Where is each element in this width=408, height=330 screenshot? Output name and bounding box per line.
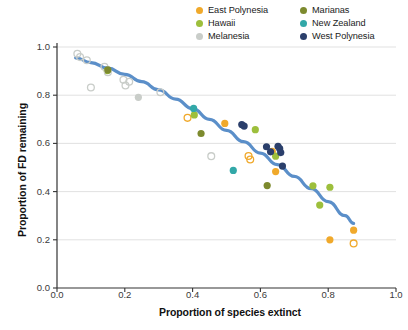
data-point-east-polynesia-open: [350, 240, 357, 247]
legend-label-hawaii: Hawaii: [208, 17, 235, 30]
y-tick-label: 1.0: [26, 41, 50, 52]
legend-swatch-new_zealand: [300, 20, 307, 27]
legend-label-east_polynesia: East Polynesia: [208, 4, 268, 17]
y-axis-tick-labels: 0.00.20.40.60.81.0: [22, 0, 50, 330]
data-point-marianas: [104, 66, 111, 73]
data-point-new-zealand: [230, 167, 237, 174]
axes: [53, 43, 396, 292]
data-point-melanesia-open: [208, 153, 215, 160]
chart-legend: East PolynesiaMarianasHawaiiNew ZealandM…: [196, 4, 402, 44]
data-point-melanesia: [135, 94, 142, 101]
data-point-hawaii: [252, 126, 259, 133]
plot-area: [0, 0, 408, 330]
data-point-hawaii: [326, 184, 333, 191]
data-point-hawaii: [316, 202, 323, 209]
data-point-west-polynesia: [279, 162, 286, 169]
data-point-west-polynesia: [277, 149, 284, 156]
legend-item-marianas[interactable]: Marianas: [300, 4, 402, 17]
data-point-marianas: [197, 130, 204, 137]
x-axis-tick-labels: 0.00.20.40.60.81.0: [0, 289, 408, 303]
chart-figure: East PolynesiaMarianasHawaiiNew ZealandM…: [0, 0, 408, 330]
data-point-hawaii: [191, 111, 198, 118]
trend-curve: [76, 58, 354, 224]
data-point-west-polynesia: [241, 122, 248, 129]
x-tick-label: 0.0: [42, 289, 72, 300]
data-point-east-polynesia: [272, 168, 279, 175]
legend-item-west_polynesia[interactable]: West Polynesia: [300, 30, 402, 43]
data-point-west-polynesia: [267, 148, 274, 155]
legend-swatch-marianas: [300, 7, 307, 14]
legend-item-new_zealand[interactable]: New Zealand: [300, 17, 402, 30]
legend-item-hawaii[interactable]: Hawaii: [196, 17, 300, 30]
data-point-melanesia-open: [88, 84, 95, 91]
data-point-east-polynesia-open: [184, 114, 191, 121]
data-point-east-polynesia: [350, 227, 357, 234]
data-point-marianas: [264, 182, 271, 189]
x-tick-label: 0.2: [110, 289, 140, 300]
x-tick-label: 0.6: [245, 289, 275, 300]
x-tick-label: 1.0: [381, 289, 408, 300]
legend-label-melanesia: Melanesia: [208, 30, 249, 43]
legend-swatch-east_polynesia: [196, 7, 203, 14]
y-tick-label: 0.4: [26, 186, 50, 197]
data-point-east-polynesia: [326, 236, 333, 243]
legend-swatch-west_polynesia: [300, 33, 307, 40]
y-tick-label: 0.6: [26, 137, 50, 148]
legend-item-melanesia[interactable]: Melanesia: [196, 30, 300, 43]
data-point-new-zealand: [190, 105, 197, 112]
legend-swatch-hawaii: [196, 20, 203, 27]
data-points: [74, 50, 357, 246]
trend-line: [76, 58, 354, 224]
legend-label-new_zealand: New Zealand: [312, 17, 366, 30]
legend-label-marianas: Marianas: [312, 4, 349, 17]
legend-label-west_polynesia: West Polynesia: [312, 30, 374, 43]
y-tick-label: 0.2: [26, 234, 50, 245]
legend-item-east_polynesia[interactable]: East Polynesia: [196, 4, 300, 17]
x-axis-title: Proportion of species extinct: [55, 306, 405, 318]
legend-swatch-melanesia: [196, 33, 203, 40]
x-tick-label: 0.8: [313, 289, 343, 300]
data-point-east-polynesia: [221, 120, 228, 127]
data-point-hawaii: [309, 182, 316, 189]
y-tick-label: 0.8: [26, 89, 50, 100]
x-tick-label: 0.4: [178, 289, 208, 300]
